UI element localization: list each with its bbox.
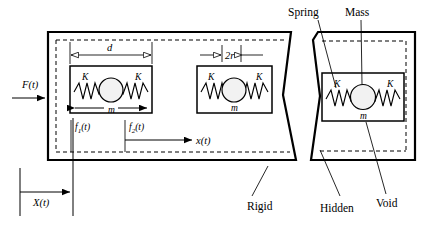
unit-cell-2: K K m	[197, 66, 272, 113]
X-displacement-label: X(t)	[32, 197, 50, 209]
cell-1-spring-left-label: K	[81, 72, 89, 82]
cell-2-mass-circle	[222, 78, 246, 102]
local-displacement-group: x(t)	[125, 135, 211, 147]
applied-force-group: F(t)	[12, 79, 45, 98]
cell-3-mass-label: m	[360, 111, 367, 121]
force-label: F(t)	[21, 79, 39, 91]
void-callout-label: Void	[376, 197, 398, 209]
cell-1-spring-right-label: K	[134, 72, 142, 82]
cell-3-spring-right-label: K	[386, 79, 394, 89]
f1-label: f1(t)	[75, 122, 90, 135]
dimension-d-group: d	[70, 42, 152, 64]
hidden-callout-leader	[320, 150, 340, 196]
rigid-callout-label: Rigid	[247, 200, 273, 213]
unit-cell-1: K K m	[70, 66, 152, 115]
spring-mass-lattice-diagram: F(t) d 2r K K m	[0, 0, 430, 226]
mass-callout-label: Mass	[345, 6, 370, 18]
void-callout-leader	[366, 122, 386, 194]
cell-1-mass-label: m	[108, 105, 115, 115]
figure-canvas: F(t) d 2r K K m	[0, 0, 430, 226]
cell-2-spring-left-label: K	[207, 72, 215, 82]
cell-1-mass-circle	[99, 78, 123, 102]
dimension-2r-group: 2r	[200, 45, 263, 62]
hidden-callout-label: Hidden	[320, 202, 354, 214]
global-displacement-group: X(t)	[20, 118, 73, 216]
f2-label: f2(t)	[129, 122, 144, 135]
rigid-callout-leader	[252, 166, 268, 196]
x-displacement-label: x(t)	[195, 135, 211, 147]
spring-callout-label: Spring	[288, 6, 319, 19]
internal-forces-group: f1(t) f2(t)	[71, 120, 144, 152]
r-label: 2r	[225, 50, 235, 61]
cell-2-spring-right-label: K	[255, 72, 263, 82]
cell-2-mass-label: m	[231, 103, 238, 113]
cell-3-mass-circle	[351, 85, 376, 110]
d-label: d	[107, 42, 113, 53]
